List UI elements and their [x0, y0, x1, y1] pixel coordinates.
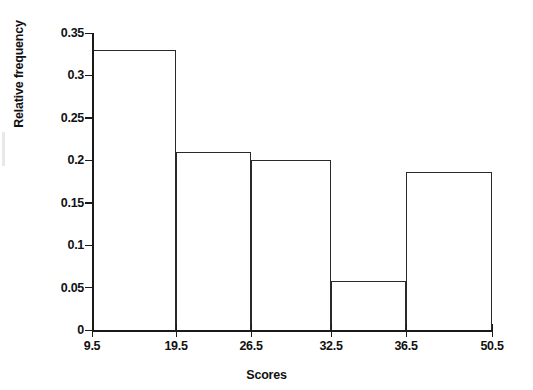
y-tick-label: 0.1 [38, 238, 84, 252]
y-tick-label: 0.05 [38, 281, 84, 295]
x-tick-label: 26.5 [221, 339, 281, 353]
y-tick-label-group: 00.050.10.150.20.250.30.35 [38, 0, 84, 390]
x-tick-mark [492, 324, 493, 337]
x-tick-label: 32.5 [301, 339, 361, 353]
y-tick-label: 0.3 [38, 68, 84, 82]
x-tick-mark [176, 324, 177, 337]
x-tick-mark [92, 324, 93, 337]
y-axis-line [92, 33, 94, 332]
x-tick-mark [251, 324, 252, 337]
histogram-bar [406, 172, 492, 330]
histogram-bar [92, 50, 176, 330]
y-tick-mark [85, 202, 92, 203]
histogram-bar [331, 281, 406, 330]
y-tick-mark [85, 33, 92, 34]
y-tick-mark [85, 75, 92, 76]
y-tick-label: 0.15 [38, 196, 84, 210]
x-tick-label: 9.5 [62, 339, 122, 353]
y-tick-label: 0.2 [38, 153, 84, 167]
y-axis-title: Relative frequency [12, 0, 34, 154]
histogram-bar [251, 160, 331, 330]
x-tick-label: 19.5 [146, 339, 206, 353]
y-tick-label: 0.25 [38, 111, 84, 125]
x-tick-mark [331, 324, 332, 337]
y-tick-mark [85, 287, 92, 288]
histogram-figure: Relative frequency 00.050.10.150.20.250.… [0, 0, 533, 390]
scan-artifact [2, 132, 5, 166]
x-tick-mark [406, 324, 407, 337]
y-tick-mark [85, 117, 92, 118]
x-axis-title: Scores [0, 368, 533, 382]
x-tick-label: 50.5 [462, 339, 522, 353]
x-axis-line [92, 330, 493, 332]
y-tick-label: 0.35 [38, 26, 84, 40]
x-tick-label: 36.5 [376, 339, 436, 353]
y-tick-mark [85, 160, 92, 161]
y-tick-mark [85, 245, 92, 246]
histogram-bar [176, 152, 251, 330]
y-tick-label: 0 [38, 323, 84, 337]
